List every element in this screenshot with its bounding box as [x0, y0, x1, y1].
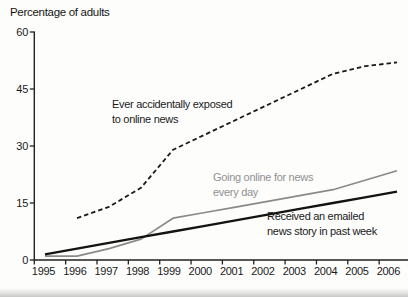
annotation-line: Going online for news — [213, 170, 313, 185]
y-tick-label: 60 — [4, 26, 28, 39]
x-tick-label: 2006 — [370, 265, 406, 278]
y-tick-label: 30 — [4, 140, 28, 153]
annotation-line: Ever accidentally exposed — [112, 97, 232, 112]
y-tick-label: 0 — [4, 254, 28, 267]
figure: Percentage of adults 015304560 199519961… — [0, 0, 408, 297]
y-tick-label: 15 — [4, 197, 28, 210]
annotation-daily-online-news: Going online for news every day — [213, 170, 313, 199]
annotation-line: Received an emailed — [267, 209, 377, 224]
annotation-line: every day — [213, 185, 313, 200]
annotation-line: news story in past week — [267, 224, 377, 239]
plot-area — [0, 0, 408, 297]
y-tick-label: 45 — [4, 83, 28, 96]
annotation-line: to online news — [112, 112, 232, 127]
annotation-emailed-news-story: Received an emailed news story in past w… — [267, 209, 377, 238]
annotation-accidental-exposure: Ever accidentally exposed to online news — [112, 97, 232, 126]
